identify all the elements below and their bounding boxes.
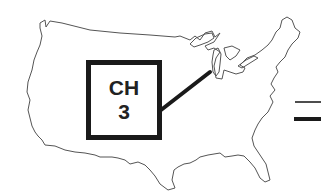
lake-michigan: [212, 48, 221, 76]
lake-superior: [190, 33, 214, 47]
callout-label-ch: CH: [109, 76, 139, 100]
channel-callout-box: CH 3: [86, 60, 162, 140]
callout-leader-line: [161, 72, 210, 110]
map-figure: CH 3: [0, 0, 321, 195]
lake-huron: [224, 46, 240, 60]
callout-label-number: 3: [118, 100, 130, 124]
us-border: [27, 17, 300, 190]
